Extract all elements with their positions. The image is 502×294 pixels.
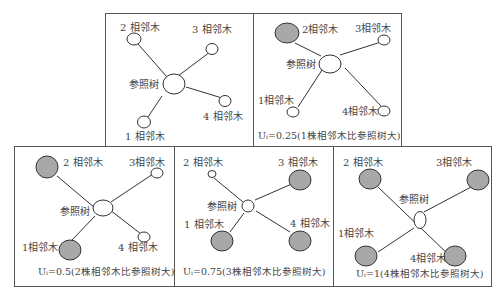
label-neighbor-2: 2 相邻木 [343, 156, 383, 168]
caption-u075: Uᵢ=0.75(3株相邻木比参照树大) [183, 266, 326, 277]
label-neighbor-4: 4相邻木 [410, 252, 446, 264]
neighbor-3-small [206, 44, 218, 55]
reference-tree [319, 55, 341, 73]
label-neighbor-1: 1 相邻木 [125, 130, 165, 142]
label-neighbor-4: 4 相邻木 [290, 217, 330, 229]
label-neighbor-3: 3相邻木 [436, 156, 472, 168]
label-neighbor-3: 3相邻木 [129, 156, 165, 168]
neighbor-2-small [127, 33, 141, 45]
label-neighbor-2: 2 相邻木 [183, 156, 223, 168]
label-neighbor-3: 3相邻木 [355, 22, 391, 34]
neighbor-1-large [59, 240, 81, 260]
caption-u025: Uᵢ=0.25(1株相邻木比参照树大) [258, 130, 401, 141]
label-neighbor-3: 3 相邻木 [192, 23, 232, 35]
label-reference: 参照树 [129, 78, 159, 90]
neighbor-2-large [36, 156, 58, 178]
label-neighbor-4: 4 相邻木 [203, 110, 243, 122]
caption-u05: Uᵢ=0.5(2株相邻木比参照树大) [38, 266, 174, 277]
neighbor-2-small [208, 171, 216, 178]
neighbor-4-large [444, 246, 466, 266]
reference-tree [414, 212, 426, 229]
label-neighbor-4: 4相邻木 [342, 105, 378, 117]
label-neighbor-1: 1相邻木 [258, 94, 294, 106]
reference-tree [93, 200, 113, 216]
neighbor-4-small [219, 96, 231, 107]
diagram-canvas: 2 相邻木 3 相邻木 参照树 4 相邻木 1 相邻木 2相邻木 3相邻木 参照… [0, 0, 502, 294]
label-neighbor-1: 1相邻木 [22, 241, 58, 253]
neighbor-1-large [355, 246, 377, 266]
caption-u1: Uᵢ=1(4株相邻木比参照树大) [356, 268, 483, 279]
neighbor-2-large [359, 169, 381, 189]
label-reference: 参照树 [60, 205, 90, 217]
label-neighbor-2: 2 相邻木 [63, 156, 103, 168]
neighbor-3-small [378, 35, 390, 45]
neighbor-1-small [287, 107, 299, 117]
neighbor-4-small [378, 106, 390, 116]
label-reference: 参照树 [207, 200, 237, 212]
neighbor-3-large [467, 170, 489, 190]
label-neighbor-1: 1相邻木 [338, 227, 374, 239]
label-neighbor-2: 2相邻木 [302, 23, 338, 35]
label-neighbor-1: 1 相邻木 [184, 218, 224, 230]
neighbor-4-small [138, 232, 150, 242]
label-reference: 参照树 [399, 193, 429, 205]
reference-tree [163, 74, 185, 94]
neighbor-1-large [211, 231, 233, 251]
neighbor-2-large [275, 23, 299, 43]
label-reference: 参照树 [286, 58, 316, 70]
label-neighbor-2: 2 相邻木 [120, 21, 160, 33]
neighbor-1-small [138, 116, 151, 128]
label-neighbor-4: 4 相邻木 [118, 241, 158, 253]
neighbor-3-small [151, 168, 163, 178]
reference-tree [242, 200, 254, 212]
neighbor-4-large [289, 231, 311, 251]
panel-4-graph [355, 169, 489, 266]
label-neighbor-3: 3 相邻木 [278, 156, 318, 168]
neighbor-3-large [289, 170, 311, 190]
